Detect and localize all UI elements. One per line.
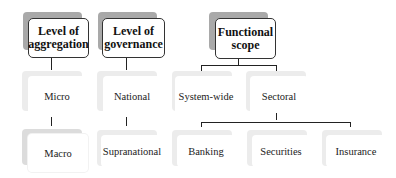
node-label: Sectoral [262,91,296,102]
node-label: Securities [260,146,301,157]
node-label: Supranational [103,146,161,157]
node-label: Micro [44,91,70,102]
node-label: governance [104,38,163,51]
node-label: System-wide [179,91,234,102]
node-micro: Micro [28,76,86,116]
node-macro: Macro [28,134,88,172]
node-system-wide: System-wide [175,76,237,116]
node-national: National [103,76,161,116]
node-label: scope [232,39,260,52]
node-insurance: Insurance [326,135,386,167]
connector [126,58,127,70]
node-label: National [114,91,150,102]
node-level-of-aggregation: Level of aggregation [28,18,89,58]
node-level-of-governance: Level of governance [102,18,165,58]
node-functional-scope: Functional scope [215,18,276,59]
node-supranational: Supranational [101,135,163,167]
connector [350,122,351,127]
node-label: Macro [44,148,71,159]
node-banking: Banking [177,135,235,167]
node-label: aggregation [28,38,88,51]
connector [126,117,127,126]
connector [51,117,52,126]
connector [201,65,277,66]
connector [201,122,351,123]
node-label: Insurance [336,146,377,157]
connector [276,113,277,120]
node-label: Banking [188,146,224,157]
connector [51,58,52,70]
node-label: Functional [218,26,273,39]
node-sectoral: Sectoral [250,76,308,116]
node-securities: Securities [252,135,310,167]
connector [201,122,202,127]
